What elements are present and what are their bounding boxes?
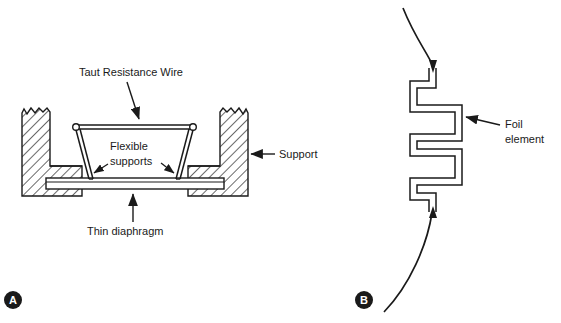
panel-a-group: Taut Resistance Wire Flexible supports S… [4,66,318,309]
figure-root: Taut Resistance Wire Flexible supports S… [0,0,561,323]
foil-element-label-line1: Foil [505,118,523,130]
thin-diaphragm-label: Thin diaphragm [87,225,163,237]
diaphragm-bar [46,178,224,189]
flexible-supports-label-line2: supports [110,155,153,167]
panel-b-group: Foil element B [355,8,544,312]
taut-wire-label: Taut Resistance Wire [79,66,183,78]
panel-b-letter: B [360,294,368,306]
flexible-supports-leader-left [94,164,108,173]
flexible-supports-label-line1: Flexible [110,140,148,152]
upper-lead-wire [403,8,433,66]
foil-element-leader-arrow [466,117,500,125]
panel-a-letter-badge: A [4,291,22,309]
left-pivot-circle [73,124,80,131]
right-pivot-circle [190,124,197,131]
taut-resistance-wire [76,125,193,129]
lower-lead-wire [384,213,432,312]
foil-element-label-line2: element [505,133,544,145]
panel-a-letter: A [9,294,17,306]
thin-diaphragm [46,178,224,189]
foil-element-serpentine [410,68,462,212]
figure-canvas: Taut Resistance Wire Flexible supports S… [0,0,561,323]
taut-wire-leader-arrow [127,82,139,119]
foil-ribbon-inner-edge [417,68,462,212]
panel-b-letter-badge: B [355,291,373,309]
flexible-supports-leader-right [161,163,174,173]
support-label: Support [279,148,318,160]
